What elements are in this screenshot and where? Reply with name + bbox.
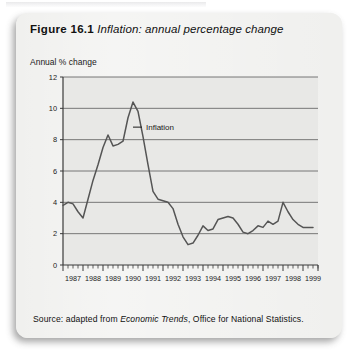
chart-canvas: 0246810121987198819891990199119921993199… — [30, 69, 330, 297]
x-tick-label: 1993 — [185, 274, 201, 283]
x-tick-label: 1992 — [165, 274, 181, 283]
figure-card-surface: Figure 16.1 Inflation: annual percentage… — [16, 13, 342, 338]
figure-title: Figure 16.1 Inflation: annual percentage… — [30, 23, 284, 35]
y-tick-label: 2 — [53, 229, 57, 238]
source-publication: Economic Trends — [120, 314, 188, 324]
x-tick-label: 1999 — [305, 274, 321, 283]
figure-number: Figure 16.1 — [30, 23, 94, 35]
inflation-line-chart: 0246810121987198819891990199119921993199… — [30, 69, 330, 297]
figure-source: Source: adapted from Economic Trends, Of… — [33, 314, 304, 324]
y-tick-label: 8 — [53, 135, 57, 144]
x-tick-label: 1990 — [125, 274, 141, 283]
x-tick-label: 1991 — [145, 274, 161, 283]
x-tick-label: 1996 — [245, 274, 261, 283]
page-edge-artifact — [6, 2, 206, 7]
figure-card: Figure 16.1 Inflation: annual percentage… — [16, 13, 342, 338]
source-prefix: Source: adapted from — [33, 314, 120, 324]
x-tick-label: 1989 — [105, 274, 121, 283]
x-tick-label: 1994 — [205, 274, 221, 283]
x-tick-label: 1995 — [225, 274, 241, 283]
annotation-label-inflation: Inflation — [146, 123, 174, 132]
y-tick-label: 10 — [49, 104, 57, 113]
y-tick-label: 0 — [53, 261, 57, 270]
x-tick-label: 1988 — [85, 274, 101, 283]
x-tick-label: 1997 — [265, 274, 281, 283]
y-tick-label: 4 — [53, 198, 57, 207]
y-tick-label: 12 — [49, 73, 57, 82]
y-axis-title: Annual % change — [30, 57, 97, 67]
x-tick-label: 1987 — [65, 274, 81, 283]
x-tick-label: 1998 — [285, 274, 301, 283]
source-suffix: , Office for National Statistics. — [188, 314, 304, 324]
y-tick-label: 6 — [53, 167, 57, 176]
figure-caption: Inflation: annual percentage change — [97, 23, 283, 35]
